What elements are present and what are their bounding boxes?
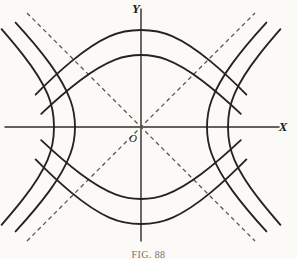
branch-bottom	[141, 140, 241, 199]
branch-left	[16, 23, 75, 127]
branch-left-lower	[16, 127, 75, 231]
branch-left	[2, 29, 54, 127]
branch-bottom-left	[36, 159, 141, 224]
axis-labels-group: X Y O	[129, 1, 288, 144]
branch-top	[141, 30, 246, 95]
branch-right	[228, 29, 280, 127]
branch-left-lower	[2, 127, 54, 225]
y-axis-label: Y	[132, 1, 141, 16]
origin-label: O	[129, 132, 137, 144]
branch-bottom-left	[41, 140, 141, 199]
axes-group	[5, 9, 279, 241]
branch-right	[207, 23, 266, 127]
branch-bottom	[141, 159, 246, 224]
figure-caption: FIG. 88	[0, 249, 297, 259]
branch-top-left	[41, 55, 141, 114]
branch-top	[141, 55, 241, 114]
branch-right-lower	[228, 127, 280, 225]
branch-top-left	[36, 30, 141, 95]
hyperbola-figure: X Y O	[0, 0, 297, 259]
figure-page: X Y O FIG. 88	[0, 0, 297, 259]
branch-right-lower	[207, 127, 266, 231]
x-axis-label: X	[278, 119, 288, 134]
